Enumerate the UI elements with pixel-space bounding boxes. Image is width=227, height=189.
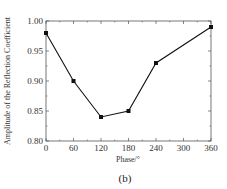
x-axis-ticks: 060120180240300360 (44, 21, 219, 153)
x-tick-label: 0 (44, 143, 49, 153)
reflection-amplitude-chart: 0.800.850.900.951.00 060120180240300360 … (0, 0, 227, 189)
plot-frame (46, 21, 211, 141)
data-series (44, 25, 213, 119)
x-tick-label: 300 (177, 143, 191, 153)
data-point-marker (154, 61, 158, 65)
data-point-marker (127, 109, 131, 113)
series-line (46, 27, 211, 117)
x-tick-label: 240 (149, 143, 163, 153)
x-tick-label: 120 (94, 143, 108, 153)
y-tick-label: 0.85 (27, 106, 43, 116)
data-point-marker (72, 79, 76, 83)
data-point-marker (99, 115, 103, 119)
x-axis-label: Phase/° (116, 155, 140, 164)
x-tick-label: 60 (69, 143, 79, 153)
y-tick-label: 1.00 (27, 16, 43, 26)
y-tick-label: 0.95 (27, 46, 43, 56)
data-point-marker (44, 31, 48, 35)
y-tick-label: 0.90 (27, 76, 43, 86)
y-tick-label: 0.80 (27, 136, 43, 146)
x-tick-label: 360 (204, 143, 218, 153)
y-axis-label: Amplitude of the Reflection Coefficient (3, 16, 12, 145)
x-tick-label: 180 (122, 143, 136, 153)
data-point-marker (209, 25, 213, 29)
y-axis-ticks: 0.800.850.900.951.00 (27, 16, 211, 146)
figure-caption: (b) (119, 172, 132, 185)
